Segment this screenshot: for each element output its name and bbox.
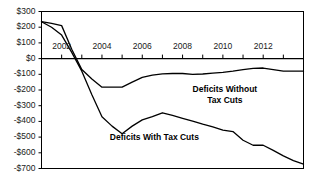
- y-axis-tick-label: -$300: [0, 101, 36, 110]
- series-line-without-tax-cuts: [42, 22, 304, 87]
- y-axis-tick-label: -$700: [0, 164, 36, 173]
- x-axis-tick-label: 2006: [122, 42, 162, 51]
- series-annotation-line2: Tax Cuts: [165, 95, 285, 106]
- x-axis-tick-label: 2002: [42, 42, 82, 51]
- y-axis-tick-label: $100: [0, 38, 36, 47]
- y-axis-tick-label: -$400: [0, 116, 36, 125]
- x-axis-tick-label: 2012: [243, 42, 283, 51]
- x-axis-tick-label: 2010: [203, 42, 243, 51]
- series-annotation-line1: Deficits With Tax Cuts: [94, 132, 214, 143]
- series-annotation: Deficits WithoutTax Cuts: [165, 84, 285, 106]
- series-annotation-line1: Deficits Without: [165, 84, 285, 95]
- x-axis-tick-label: 2004: [82, 42, 122, 51]
- y-axis-tick-label: $0: [0, 54, 36, 63]
- y-axis-tick-label: $300: [0, 7, 36, 16]
- y-axis-tick-label: $200: [0, 22, 36, 31]
- deficit-projection-chart: $300$200$100$0-$100-$200-$300-$400-$500-…: [0, 0, 311, 177]
- y-axis-tick-label: -$600: [0, 148, 36, 157]
- y-axis-tick-label: -$100: [0, 69, 36, 78]
- series-annotation: Deficits With Tax Cuts: [94, 132, 214, 143]
- y-axis-tick-label: -$500: [0, 132, 36, 141]
- y-axis-tick-label: -$200: [0, 85, 36, 94]
- x-axis-tick-label: 2008: [163, 42, 203, 51]
